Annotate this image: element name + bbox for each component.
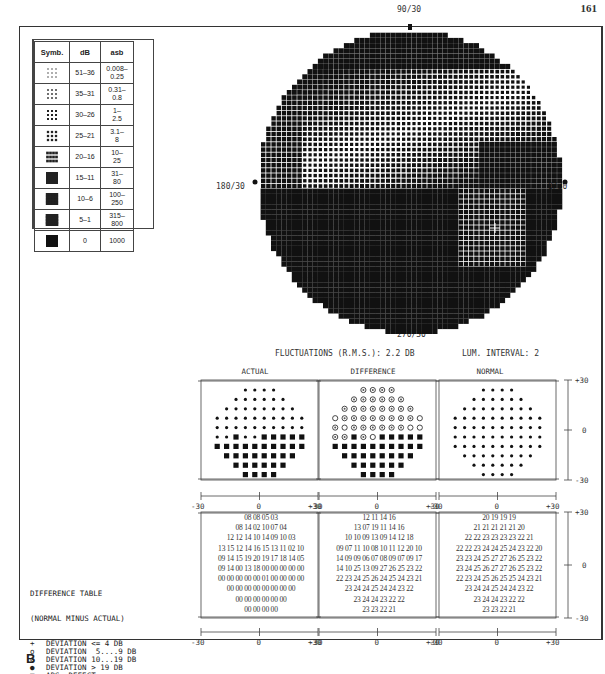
test-point-mark <box>454 426 457 429</box>
test-point-mark <box>482 454 485 457</box>
value-table-row: 00 00 00 00 <box>201 605 321 615</box>
test-point-mark <box>482 445 485 448</box>
test-point-mark <box>472 398 475 401</box>
abs-defect-mark <box>370 463 375 468</box>
test-point-mark <box>482 417 485 420</box>
test-point-mark <box>510 426 513 429</box>
x-tick-label: +30 <box>546 502 560 511</box>
abs-defect-mark <box>342 453 347 458</box>
y-tick-label: 0 <box>582 561 587 570</box>
abs-defect-mark <box>380 453 385 458</box>
test-point-mark <box>253 435 256 438</box>
abs-defect-mark <box>351 444 356 449</box>
test-point-mark <box>244 417 247 420</box>
abs-defect-mark <box>417 434 422 439</box>
test-point-mark <box>281 407 284 410</box>
abs-defect-mark <box>380 463 385 468</box>
test-point-mark <box>529 454 532 457</box>
abs-defect-mark <box>398 444 403 449</box>
test-point-mark <box>510 445 513 448</box>
abs-defect-mark <box>398 453 403 458</box>
test-point-mark <box>472 445 475 448</box>
panel-frame <box>201 380 318 480</box>
abs-defect-mark <box>280 453 285 458</box>
difference-legend-subtitle: (NORMAL MINUS ACTUAL) <box>30 615 136 623</box>
test-point-mark <box>482 464 485 467</box>
value-table-row: 13 07 19 11 14 16 <box>319 523 439 533</box>
abs-defect-mark <box>389 463 394 468</box>
test-point-mark <box>253 426 256 429</box>
test-point-mark <box>538 435 541 438</box>
test-point-mark <box>216 435 219 438</box>
y-tick-label: 0 <box>582 426 587 435</box>
value-table-row: 12 12 14 10 14 09 10 03 <box>201 533 321 543</box>
abs-defect-mark <box>262 444 267 449</box>
x-tick-label: 0 <box>257 638 262 647</box>
test-point-mark <box>253 407 256 410</box>
test-point-mark <box>272 417 275 420</box>
test-point-mark <box>454 417 457 420</box>
value-table-row: 23 24 24 25 24 24 23 22 <box>319 584 439 594</box>
value-table-row: 20 19 19 19 <box>439 513 559 523</box>
test-point-mark <box>244 426 247 429</box>
abs-defect-mark <box>389 472 394 477</box>
test-point-mark <box>300 417 303 420</box>
test-point-mark <box>225 435 228 438</box>
abs-defect-mark <box>243 444 248 449</box>
test-point-mark <box>491 388 494 391</box>
test-point-mark <box>472 407 475 410</box>
value-table-row: 23 23 24 25 27 27 26 25 23 22 <box>439 554 559 564</box>
abs-defect-mark <box>408 434 413 439</box>
test-point-mark <box>519 426 522 429</box>
abs-defect-mark <box>280 463 285 468</box>
test-point-mark <box>281 417 284 420</box>
x-tick-label: -30 <box>309 638 323 647</box>
test-point-mark <box>491 464 494 467</box>
abs-defect-mark <box>290 453 295 458</box>
test-point-mark <box>454 445 457 448</box>
test-point-mark <box>519 464 522 467</box>
deviation-5-9-mark <box>417 416 422 421</box>
abs-defect-mark <box>398 434 403 439</box>
test-point-mark <box>234 426 237 429</box>
deviation-5-9-mark <box>370 434 375 439</box>
value-table-row: 14 09 09 06 07 08 09 07 09 17 <box>319 554 439 564</box>
value-table-row: 22 23 24 25 26 25 25 24 23 21 <box>439 574 559 584</box>
test-point-mark <box>482 388 485 391</box>
test-point-mark <box>501 388 504 391</box>
test-point-mark <box>529 407 532 410</box>
test-point-mark <box>216 426 219 429</box>
test-point-mark <box>519 407 522 410</box>
y-tick-label: -30 <box>575 614 589 623</box>
test-point-mark <box>463 417 466 420</box>
value-table-row: 09 14 00 13 18 00 00 00 00 00 <box>201 564 321 574</box>
test-point-mark <box>491 454 494 457</box>
value-table-row: 10 10 09 13 09 14 12 18 <box>319 533 439 543</box>
abs-defect-mark <box>252 472 257 477</box>
abs-defect-mark <box>389 444 394 449</box>
test-point-mark <box>291 426 294 429</box>
abs-defect-mark <box>271 444 276 449</box>
abs-defect-mark <box>389 434 394 439</box>
test-point-mark <box>482 473 485 476</box>
test-point-mark <box>501 464 504 467</box>
test-point-mark <box>538 426 541 429</box>
test-point-mark <box>272 388 275 391</box>
test-point-mark <box>501 445 504 448</box>
value-table-row: 22 22 23 24 24 25 24 23 22 20 <box>439 544 559 554</box>
abs-defect-mark <box>361 472 366 477</box>
x-tick-label: -30 <box>429 638 443 647</box>
abs-defect-mark <box>333 444 338 449</box>
test-point-mark <box>482 426 485 429</box>
value-table-row: 22 23 24 25 26 24 25 24 23 21 <box>319 574 439 584</box>
abs-defect-mark <box>351 463 356 468</box>
test-point-mark <box>501 417 504 420</box>
x-tick-label: -30 <box>191 502 205 511</box>
value-table-normal: 20 19 19 1921 21 21 21 21 2022 22 23 23 … <box>439 513 559 615</box>
figure-label: B <box>26 651 35 666</box>
test-point-mark <box>216 417 219 420</box>
test-point-mark <box>482 435 485 438</box>
test-point-mark <box>491 398 494 401</box>
test-point-mark <box>225 426 228 429</box>
abs-defect-mark <box>361 463 366 468</box>
